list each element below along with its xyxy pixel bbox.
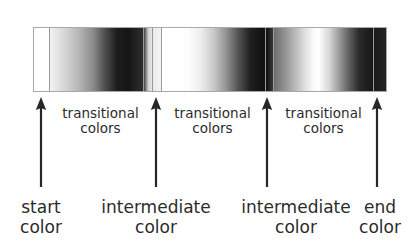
anchor-label-start-color: start color <box>8 197 74 237</box>
anchor-arrow-start <box>34 97 48 187</box>
transitional-colors-label-1: transitional colors <box>53 106 148 136</box>
gradient-segment-end-color-block <box>373 28 386 91</box>
gradient-segment-start-color-block <box>34 28 49 91</box>
gradient-segment-transition-2 <box>161 28 265 91</box>
transitional-colors-label-2: transitional colors <box>165 106 260 136</box>
gradient-segment-transition-3 <box>273 28 372 91</box>
anchor-label-end-color: end color <box>352 197 408 237</box>
gradient-segment-intermediate-2-block <box>265 28 274 91</box>
gradient-segment-intermediate-1-approach <box>143 28 152 91</box>
anchor-arrow-intermediate-1 <box>149 97 163 187</box>
gradient-segment-transition-1 <box>49 28 143 91</box>
gradient-strip <box>33 27 387 92</box>
anchor-label-intermediate-color-1: intermediate color <box>82 197 230 237</box>
anchor-label-intermediate-color-2: intermediate color <box>222 197 370 237</box>
anchor-arrow-end <box>370 97 384 187</box>
anchor-arrow-intermediate-2 <box>260 97 274 187</box>
gradient-segment-intermediate-1-block <box>152 28 161 91</box>
transitional-colors-label-3: transitional colors <box>276 106 371 136</box>
